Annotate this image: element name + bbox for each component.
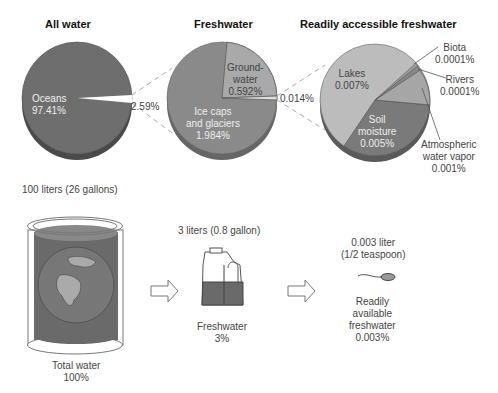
arrow-right-icon-1 — [151, 280, 178, 302]
label-ready-volume: 0.003 liter(1/2 teaspoon) — [341, 237, 406, 261]
label-lakes: Lakes0.007% — [335, 68, 369, 92]
label-readily-available: Readilyavailablefreshwater0.003% — [349, 296, 396, 344]
pie-freshwater — [167, 42, 277, 160]
label-access-pct: 0.014% — [280, 93, 314, 105]
pie-title-readily-accessible: Readily accessible freshwater — [300, 18, 457, 30]
label-freshwater: Freshwater3% — [197, 321, 247, 345]
label-atmospheric: Atmosphericwater vapor0.001% — [421, 139, 477, 175]
label-oceans: Oceans97.41% — [32, 93, 66, 117]
pie-title-all-water: All water — [45, 18, 91, 30]
label-soil-moisture: Soilmoisture0.005% — [358, 114, 396, 150]
label-fresh-volume: 3 liters (0.8 gallon) — [178, 225, 260, 237]
label-total-water: Total water100% — [52, 360, 100, 384]
label-fresh-pct: 2.59% — [131, 101, 159, 113]
label-groundwater: Ground-water0.592% — [227, 62, 264, 98]
label-biota: Biota0.0001% — [435, 42, 474, 66]
jug-icon — [202, 248, 243, 305]
arrow-right-icon-2 — [288, 280, 315, 302]
teaspoon-icon — [358, 274, 395, 281]
label-rivers: Rivers0.0001% — [440, 74, 479, 98]
label-total-volume: 100 liters (26 gallons) — [22, 184, 118, 196]
pie-title-freshwater: Freshwater — [194, 18, 253, 30]
label-ice-caps: Ice capsand glaciers1.984% — [186, 106, 240, 142]
chart-graphics — [0, 0, 498, 393]
cylinder-icon — [28, 217, 124, 354]
